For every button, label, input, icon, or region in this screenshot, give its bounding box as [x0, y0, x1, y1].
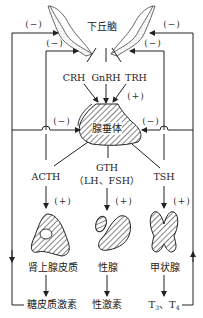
gland-to-hormone-arrows: [46, 275, 164, 296]
adrenal-cortex-shape: [31, 214, 69, 256]
stimulate-sign-releasing: (+): [127, 91, 145, 101]
gonad-shape: [94, 215, 131, 251]
inhibit-sign-hypothalamus-left-outer: (−): [25, 19, 43, 29]
stimulate-sign-tsh: (+): [173, 196, 191, 206]
crh-label: CRH: [63, 72, 86, 83]
pituitary-label: 腺垂体: [92, 123, 122, 134]
trh-label: TRH: [125, 72, 147, 83]
inhibit-sign-pituitary-right: (−): [142, 116, 160, 126]
glucocorticoid-label: 糖皮质激素: [27, 299, 77, 310]
inhibit-sign-hypothalamus-right-inner: (−): [144, 38, 162, 48]
gth-label: GTH: [96, 162, 118, 173]
thyroid-shape: [150, 212, 178, 252]
gonad-label: 性腺: [98, 262, 118, 273]
stimulate-sign-gth: (+): [115, 196, 133, 206]
adrenal-cortex-label: 肾上腺皮质: [28, 262, 78, 273]
thyroid-label: 甲状腺: [150, 262, 180, 273]
inhibit-sign-hypothalamus-right-outer: (−): [163, 19, 181, 29]
tsh-label: TSH: [153, 171, 174, 182]
acth-label: ACTH: [32, 171, 61, 182]
stimulate-sign-acth: (+): [54, 196, 72, 206]
gnrh-label: GnRH: [91, 72, 120, 83]
inhibit-sign-pituitary-left: (−): [53, 116, 71, 126]
sex-hormone-label: 性激素: [92, 299, 122, 310]
inhibit-sign-hypothalamus-left-inner: (−): [46, 38, 64, 48]
thyroid-hormone-label: T3、T4: [149, 299, 180, 313]
gth-detail-label: （LH、FSH）: [74, 175, 140, 186]
hypothalamus-label: 下丘脑: [87, 21, 117, 32]
